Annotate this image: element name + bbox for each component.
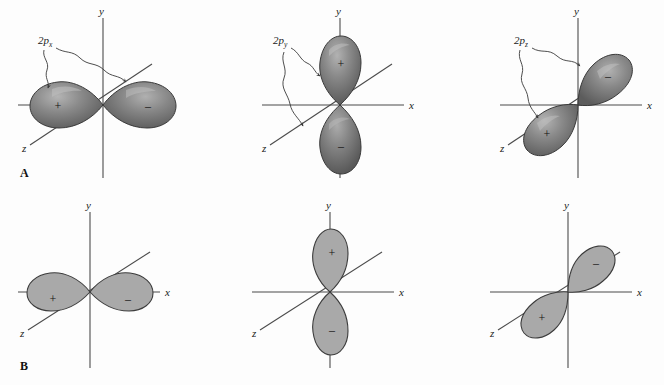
sign-negative: – xyxy=(604,69,612,83)
z-axis-label: z xyxy=(499,142,505,154)
sign-negative: – xyxy=(592,256,600,270)
panel-letter-a: A xyxy=(20,166,29,180)
sign-negative: – xyxy=(328,323,336,337)
sign-positive: + xyxy=(338,57,345,71)
x-axis-label: x xyxy=(646,99,652,111)
z-axis-label: z xyxy=(21,142,27,154)
x-axis-label: x xyxy=(636,286,642,298)
sign-positive: + xyxy=(50,292,57,306)
sign-positive: + xyxy=(55,99,62,113)
y-axis-label: y xyxy=(335,5,341,17)
orbital-figure: x y z + – 2px xyxy=(0,0,664,385)
sign-positive: + xyxy=(544,127,551,141)
x-axis-label: x xyxy=(408,99,414,111)
z-axis-label: z xyxy=(261,142,267,154)
y-axis-label: y xyxy=(325,199,331,211)
z-axis-label: z xyxy=(489,327,495,339)
sign-positive: + xyxy=(539,311,546,325)
sign-positive: + xyxy=(329,246,336,260)
y-axis-label: y xyxy=(563,199,569,211)
y-axis-label: y xyxy=(85,199,91,211)
x-axis-label: x xyxy=(164,286,170,298)
y-axis-label: y xyxy=(98,5,104,17)
panel-letter-b: B xyxy=(20,359,28,373)
sign-negative: – xyxy=(124,292,132,306)
z-axis-label: z xyxy=(251,327,257,339)
x-axis-label: x xyxy=(398,286,404,298)
figure-canvas: x y z + – 2px xyxy=(0,0,664,385)
sign-negative: – xyxy=(337,139,345,153)
sign-negative: – xyxy=(144,99,152,113)
y-axis-label: y xyxy=(573,5,579,17)
z-axis-label: z xyxy=(19,327,25,339)
